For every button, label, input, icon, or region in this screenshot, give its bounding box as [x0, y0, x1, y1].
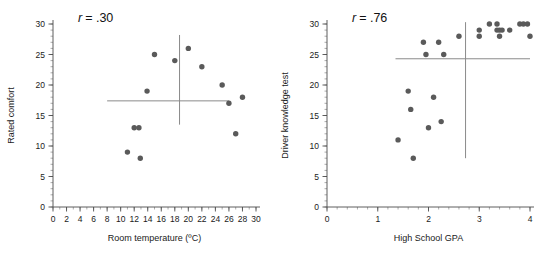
data-point	[226, 101, 231, 106]
y-axis-tick-label: 0	[40, 202, 45, 212]
data-point	[527, 34, 532, 39]
x-axis-tick-label: 2	[64, 214, 69, 224]
data-point	[438, 119, 443, 124]
y-axis-tick-label: 0	[314, 202, 319, 212]
data-point	[494, 21, 499, 26]
scatterplot-figure: r= .300246810121416182022242628300510152…	[0, 0, 547, 256]
y-axis-tick-label: 15	[310, 111, 320, 121]
data-point	[421, 40, 426, 45]
data-point	[406, 88, 411, 93]
data-point	[525, 21, 530, 26]
data-point	[138, 156, 143, 161]
data-point	[152, 52, 157, 57]
x-axis-tick-label: 2	[426, 214, 431, 224]
data-point	[507, 27, 512, 32]
data-point	[125, 149, 130, 154]
x-axis-tick-label: 24	[211, 214, 221, 224]
x-axis-tick-label: 14	[143, 214, 153, 224]
x-axis-title: Room temperature (ºC)	[108, 233, 201, 243]
x-axis-tick-label: 22	[197, 214, 207, 224]
data-point	[477, 34, 482, 39]
x-axis-tick-label: 1	[375, 214, 380, 224]
scatterplot-room-temperature: r= .300246810121416182022242628300510152…	[0, 0, 273, 256]
y-axis-tick-label: 20	[36, 80, 46, 90]
data-point	[186, 46, 191, 51]
data-point	[436, 40, 441, 45]
data-point	[499, 27, 504, 32]
data-point	[240, 95, 245, 100]
x-axis-tick-label: 0	[51, 214, 56, 224]
data-point	[408, 107, 413, 112]
data-point	[431, 95, 436, 100]
data-point	[411, 156, 416, 161]
x-axis-tick-label: 4	[78, 214, 83, 224]
x-axis-tick-label: 16	[157, 214, 167, 224]
chart-panel-right: r= .7601234051015202530High School GPADr…	[274, 0, 547, 256]
x-axis-tick-label: 18	[170, 214, 180, 224]
data-point	[423, 52, 428, 57]
correlation-value: = .30	[85, 11, 113, 25]
data-point	[456, 34, 461, 39]
y-axis-tick-label: 25	[36, 50, 46, 60]
x-axis-tick-label: 10	[116, 214, 126, 224]
data-point	[219, 82, 224, 87]
y-axis-tick-label: 30	[36, 19, 46, 29]
y-axis-tick-label: 10	[310, 141, 320, 151]
y-axis-title: Driver knowledge test	[280, 72, 290, 159]
correlation-symbol: r	[78, 11, 83, 25]
data-point	[144, 88, 149, 93]
scatterplot-high-school-gpa: r= .7601234051015202530High School GPADr…	[274, 0, 547, 256]
data-point	[395, 137, 400, 142]
data-point	[233, 131, 238, 136]
x-axis-tick-label: 20	[184, 214, 194, 224]
data-point	[136, 125, 141, 130]
y-axis-tick-label: 10	[36, 141, 46, 151]
x-axis-tick-label: 0	[325, 214, 330, 224]
data-point	[132, 125, 137, 130]
correlation-symbol: r	[352, 11, 357, 25]
chart-panel-left: r= .300246810121416182022242628300510152…	[0, 0, 273, 256]
y-axis-tick-label: 15	[36, 111, 46, 121]
data-point	[199, 64, 204, 69]
correlation-annotation: r= .30	[78, 11, 113, 25]
x-axis-tick-label: 8	[105, 214, 110, 224]
y-axis-title: Rated comfort	[6, 87, 16, 144]
x-axis-tick-label: 6	[91, 214, 96, 224]
data-point	[497, 34, 502, 39]
y-axis-tick-label: 25	[310, 50, 320, 60]
y-axis-tick-label: 20	[310, 80, 320, 90]
data-point	[477, 27, 482, 32]
x-axis-tick-label: 12	[129, 214, 139, 224]
x-axis-tick-label: 30	[251, 214, 261, 224]
x-axis-tick-label: 28	[238, 214, 248, 224]
x-axis-tick-label: 26	[224, 214, 234, 224]
y-axis-tick-label: 5	[40, 172, 45, 182]
x-axis-tick-label: 3	[477, 214, 482, 224]
correlation-annotation: r= .76	[352, 11, 387, 25]
x-axis-tick-label: 4	[528, 214, 533, 224]
data-point	[487, 21, 492, 26]
data-point	[172, 58, 177, 63]
data-point	[441, 52, 446, 57]
x-axis-title: High School GPA	[394, 233, 463, 243]
y-axis-tick-label: 5	[314, 172, 319, 182]
data-point	[426, 125, 431, 130]
y-axis-tick-label: 30	[310, 19, 320, 29]
correlation-value: = .76	[359, 11, 387, 25]
